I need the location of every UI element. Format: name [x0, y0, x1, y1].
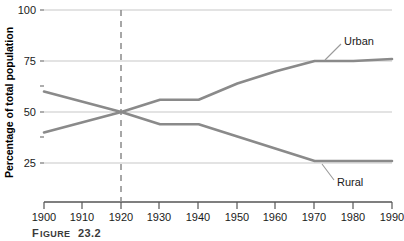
series-line-rural: [44, 92, 392, 161]
x-axis-ticks: [44, 202, 392, 209]
x-tick-label-1990: 1990: [380, 211, 404, 223]
x-tick-label-1980: 1980: [341, 211, 365, 223]
x-axis-tick-labels: 1900 1910 1920 1930 1940 1950 1960 1970 …: [32, 211, 404, 223]
x-tick-label-1950: 1950: [225, 211, 249, 223]
figure-caption: F IGURE 23.2: [32, 227, 101, 239]
y-tick-label-100: 100: [18, 4, 36, 16]
caption-f: F: [32, 227, 39, 239]
gridlines: [44, 10, 392, 163]
y-tick-label-75: 75: [24, 55, 36, 67]
urban-leader-line: [325, 44, 341, 60]
rural-label: Rural: [337, 176, 363, 188]
y-axis-title: Percentage of total population: [3, 27, 15, 178]
y-tick-label-50: 50: [24, 106, 36, 118]
y-axis-tick-labels: 100 75 50 25: [18, 4, 36, 169]
urban-label: Urban: [344, 35, 374, 47]
line-chart: 100 75 50 25 Percentage of total populat…: [0, 0, 404, 241]
x-tick-label-1920: 1920: [109, 211, 133, 223]
rural-leader-line: [322, 164, 334, 180]
figure-container: 100 75 50 25 Percentage of total populat…: [0, 0, 404, 241]
x-tick-label-1940: 1940: [186, 211, 210, 223]
x-tick-label-1930: 1930: [147, 211, 171, 223]
series-line-urban: [44, 59, 392, 132]
y-tick-label-25: 25: [24, 157, 36, 169]
caption-igure: IGURE: [40, 229, 71, 239]
x-tick-label-1910: 1910: [70, 211, 94, 223]
y-axis-ticks: [40, 10, 44, 163]
x-tick-label-1970: 1970: [302, 211, 326, 223]
x-tick-label-1960: 1960: [263, 211, 287, 223]
x-tick-label-1900: 1900: [32, 211, 56, 223]
caption-number: 23.2: [78, 227, 101, 239]
